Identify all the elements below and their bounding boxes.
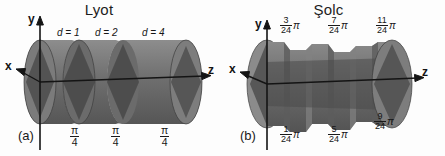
panel-lyot: Lyot	[0, 0, 222, 156]
panel-a-label: (a)	[18, 128, 34, 143]
lyot-element-3	[107, 40, 202, 124]
panel-b-label: (b)	[240, 128, 256, 143]
panel-solc: Şolc	[222, 0, 445, 156]
solc-angle-label-top-1: 3 24 π	[280, 16, 300, 36]
solc-angle-label-bottom-3: 9 24 π	[374, 112, 394, 132]
lyot-angle-label-2: π 4	[111, 125, 120, 148]
lyot-thickness-label-3: d = 4	[142, 27, 165, 38]
lyot-thickness-label-2: d = 2	[95, 27, 118, 38]
axis-label-z-b: z	[422, 65, 428, 79]
figure-container: Lyot	[0, 0, 445, 156]
axis-label-z-a: z	[208, 63, 214, 77]
solc-angle-label-top-3: 11 24 π	[376, 16, 396, 36]
axis-label-x-a: x	[5, 59, 12, 73]
axis-label-x-b: x	[229, 62, 236, 76]
axis-label-y-b: y	[255, 17, 262, 31]
lyot-angle-label-3: π 4	[160, 125, 169, 148]
axis-label-y-a: y	[28, 12, 35, 26]
solc-angle-label-top-2: 7 24 π	[328, 16, 348, 36]
lyot-angle-label-1: π 4	[70, 125, 79, 148]
lyot-thickness-label-1: d = 1	[57, 27, 80, 38]
solc-angle-label-bottom-2: 5 24 π	[328, 125, 348, 145]
solc-angle-label-bottom-1: 1 24 π	[280, 125, 300, 145]
